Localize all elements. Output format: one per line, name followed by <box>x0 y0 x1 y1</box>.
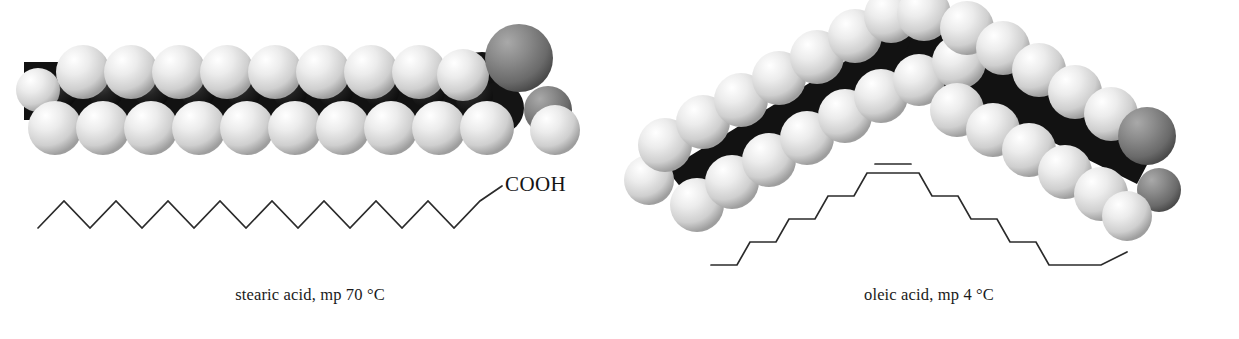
carbon-backbone-band-right <box>899 22 1159 184</box>
caption-oleic-acid: oleic acid, mp 4 °C <box>619 285 1239 305</box>
oxygen-spheres <box>485 24 572 134</box>
oleic-acid-chain-polyline <box>711 173 1127 265</box>
right-arm-spheres <box>930 1 1138 221</box>
carbon-backbone-band <box>24 52 524 134</box>
cooh-label-stearic: COOH <box>505 172 566 197</box>
caption-stearic-acid: stearic acid, mp 70 °C <box>0 285 620 305</box>
stearic-acid-chain-polyline <box>38 186 502 228</box>
panel-oleic-acid: COOH oleic acid, mp 4 °C <box>619 0 1239 339</box>
panel-stearic-acid: COOH stearic acid, mp 70 °C <box>0 0 620 339</box>
carbon-spheres <box>43 75 493 115</box>
oxygen-spheres-oleic <box>1102 107 1181 241</box>
fatty-acid-comparison-figure: COOH stearic acid, mp 70 °C <box>0 0 1239 339</box>
left-arm-spheres <box>624 0 918 232</box>
apex-spheres <box>893 0 986 106</box>
hydrogen-spheres-lower <box>28 101 580 155</box>
hydrogen-spheres-upper <box>16 45 489 112</box>
carbon-backbone-band-left <box>667 22 937 208</box>
